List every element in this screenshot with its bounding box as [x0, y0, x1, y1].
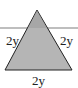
triangle-top-region [28, 10, 47, 28]
bottom-side-label: 2y [32, 73, 46, 88]
right-side-label: 2y [60, 33, 74, 48]
triangle-diagram: 2y 2y 2y [0, 0, 78, 88]
left-side-label: 2y [6, 33, 20, 48]
